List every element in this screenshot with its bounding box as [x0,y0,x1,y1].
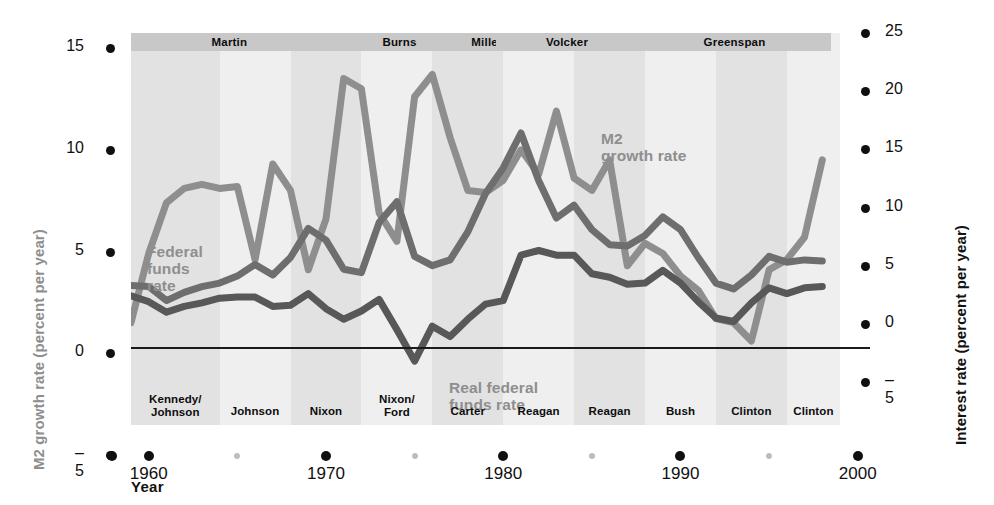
left-tick-label: 5 [75,241,84,259]
x-minor-tick-dot [412,453,418,459]
x-tick-dot [321,451,331,461]
president-label-line: Nixon [291,405,362,418]
federal-funds-annotation-line3: rate [147,277,203,294]
x-tick-label: 1990 [658,464,702,484]
series-lines [131,33,840,425]
m2-annotation-line2: growth rate [601,147,687,164]
x-tick-dot [853,451,863,461]
president-label-johnson: Johnson [220,405,291,418]
right-tick-label: 5 [885,255,894,273]
x-minor-tick-dot [589,453,595,459]
president-label-kennedy--johnson: Kennedy/Johnson [131,393,220,418]
right-tick-dot [861,87,870,96]
president-label-line: Clinton [787,405,840,418]
federal-funds-annotation-line2: funds [147,260,203,277]
federal-funds-rate-line [131,133,822,301]
president-label-line: Johnson [131,406,220,419]
left-tick-label: –5 [75,444,84,480]
president-label-clinton: Clinton [787,405,840,418]
x-tick-dot [107,451,117,461]
president-label-line: Kennedy/ [131,393,220,406]
x-tick-dot [144,451,154,461]
left-tick-dot [106,44,115,53]
real-federal-funds-rate-line [131,251,822,362]
right-tick-label: 15 [885,138,903,156]
president-label-line: Bush [645,405,716,418]
x-minor-tick-dot [234,453,240,459]
president-label-line: Ford [361,406,432,419]
president-label-carter: Carter [432,405,503,418]
x-tick-dot [498,451,508,461]
president-label-line: Reagan [503,405,574,418]
left-tick-dot [106,248,115,257]
president-label-reagan: Reagan [574,405,645,418]
federal-funds-annotation: Federal funds rate [147,243,203,294]
m2-annotation-line1: M2 [601,130,687,147]
real-federal-funds-annotation-line1: Real federal [449,379,538,396]
president-label-line: Nixon/ [361,393,432,406]
x-tick-label: 2000 [836,464,880,484]
right-tick-label: –5 [885,371,894,407]
right-tick-dot [861,145,870,154]
right-axis-title: Interest rate (percent per year) [952,225,969,445]
president-label-nixon: Nixon [291,405,362,418]
president-label-line: Carter [432,405,503,418]
federal-funds-annotation-line1: Federal [147,243,203,260]
right-tick-label: 0 [885,313,894,331]
m2-annotation: M2 growth rate [601,130,687,164]
left-axis-title: M2 growth rate (percent per year) [30,229,47,470]
x-tick-label: 1970 [304,464,348,484]
right-tick-dot [861,29,870,38]
president-label-line: Clinton [716,405,787,418]
left-tick-dot [106,349,115,358]
right-tick-label: 20 [885,80,903,98]
right-tick-label: 10 [885,197,903,215]
chart-figure: MartinBurnsMillerVolckerGreenspan M2 gro… [0,0,994,505]
zero-reference-line [131,347,870,349]
x-tick-dot [675,451,685,461]
right-tick-label: 25 [885,22,903,40]
president-label-nixon--ford: Nixon/Ford [361,393,432,418]
left-tick-label: 0 [75,342,84,360]
president-label-line: Reagan [574,405,645,418]
right-tick-dot [861,204,870,213]
right-tick-dot [861,320,870,329]
right-tick-dot [861,262,870,271]
president-label-line: Johnson [220,405,291,418]
president-label-clinton: Clinton [716,405,787,418]
president-label-bush: Bush [645,405,716,418]
x-tick-label: 1980 [481,464,525,484]
right-tick-dot [861,378,870,387]
left-tick-label: 10 [66,139,84,157]
x-axis-title: Year [131,478,164,495]
left-tick-dot [106,146,115,155]
left-tick-label: 15 [66,37,84,55]
president-label-reagan: Reagan [503,405,574,418]
x-minor-tick-dot [766,453,772,459]
